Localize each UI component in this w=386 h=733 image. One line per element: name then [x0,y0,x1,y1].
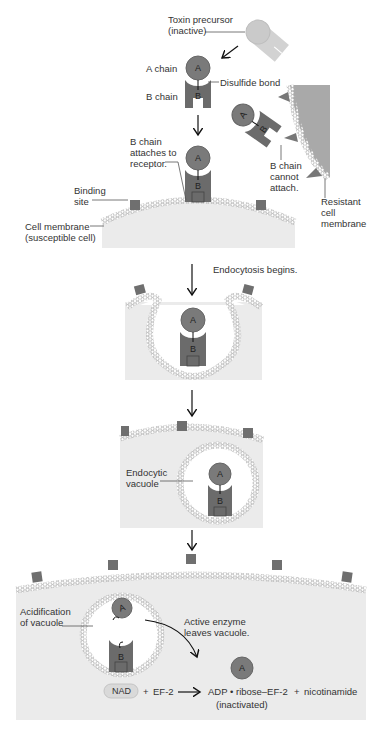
chain-b-letter: B [190,344,196,354]
endocytic-vacuole-label: Endocytic vacuole [126,467,167,489]
binding-site-icon [130,200,140,210]
chain-b-letter: B [118,652,124,662]
leader-line [178,162,186,200]
toxin-cannot-attach-icon: A B [227,98,282,147]
ef2-label: EF-2 [153,686,174,697]
active-enzyme-label: Active enzyme leaves vacuole. [184,616,249,638]
chain-b-letter: B [195,91,201,101]
chain-b-letter: B [195,181,201,191]
product-label: ADP • ribose–EF-2 [208,686,288,697]
disulfide-bond-label: Disulfide bond [220,77,280,88]
inactivated-label: (inactivated) [216,699,268,710]
susceptible-cell-icon [102,200,295,248]
plus-sign: + [143,686,149,697]
acidification-label: Acidification of vacuole [20,606,71,628]
toxin-precursor-icon [241,15,290,62]
chain-a-letter: A [195,63,201,73]
toxin-ab-icon: A B [185,56,211,108]
arrow-icon [222,46,238,58]
nad-label: NAD [112,686,131,697]
chain-a-letter: A [217,469,223,479]
endocytosis-cell-icon: A B [125,284,262,380]
b-chain-cannot-attach-label: B chain cannot attach. [270,160,302,193]
chain-a-letter: A [190,315,196,325]
nicotinamide-label: nicotinamide [304,686,357,697]
chain-a-letter: A [239,663,245,673]
plus-sign: + [294,686,300,697]
b-chain-attaches-label: B chain attaches to receptor. [130,136,176,169]
toxin-precursor-label: Toxin precursor (inactive) [168,14,233,36]
binding-site-label: Binding site [74,185,106,207]
binding-site-icon [256,200,266,210]
a-chain-label: A chain [146,63,177,74]
endocytosis-label: Endocytosis begins. [213,264,298,275]
b-chain-label: B chain [146,91,178,102]
chain-b-letter: B [217,496,223,506]
cell-membrane-label: Cell membrane (susceptible cell) [25,221,96,243]
resistant-membrane-label: Resistant cell membrane [321,196,366,229]
chain-a-letter: A [195,153,201,163]
toxin-bound-icon: A B [185,146,211,202]
